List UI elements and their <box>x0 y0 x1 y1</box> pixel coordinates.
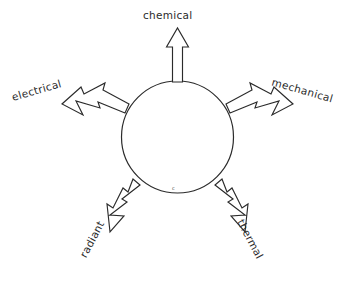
arrow-chemical <box>167 28 189 82</box>
diagram-canvas: chemical electrical mechanical radiant t… <box>0 0 353 281</box>
energy-diagram-graphic <box>0 0 353 281</box>
label-chemical: chemical <box>143 9 193 21</box>
arrow-radiant <box>107 179 140 232</box>
arrow-electrical <box>62 83 129 115</box>
center-inner-mark: c <box>172 186 175 191</box>
center-circle <box>122 81 234 193</box>
